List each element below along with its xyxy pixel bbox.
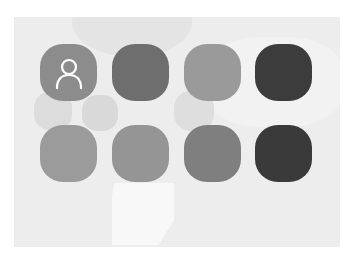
app-icon-7[interactable] [184, 125, 241, 182]
app-icon-account[interactable] [40, 44, 97, 101]
app-icon-2[interactable] [112, 44, 169, 101]
app-icon-5[interactable] [40, 125, 97, 182]
app-grid-panel [14, 17, 340, 247]
app-icon-3[interactable] [184, 44, 241, 101]
app-icon-4[interactable] [255, 44, 312, 101]
app-icon-6[interactable] [112, 125, 169, 182]
person-icon [54, 57, 84, 89]
icon-grid [14, 17, 340, 247]
app-icon-8[interactable] [255, 125, 312, 182]
